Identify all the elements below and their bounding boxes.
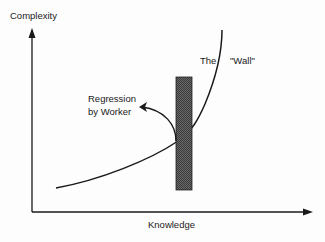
wall-label-the: The <box>200 55 216 66</box>
complexity-curve <box>56 30 222 188</box>
diagram-canvas: Complexity Knowledge The "Wall" Regressi… <box>0 0 325 242</box>
regression-label-line1: Regression <box>88 93 136 104</box>
y-axis <box>29 28 36 212</box>
wall-label-wall: "Wall" <box>230 55 255 66</box>
x-axis <box>32 209 313 216</box>
regression-label-line2: by Worker <box>88 106 131 117</box>
regression-curve <box>142 107 176 141</box>
x-axis-arrow-icon <box>303 209 313 216</box>
diagram-graphics <box>0 0 325 242</box>
x-axis-label: Knowledge <box>148 219 195 230</box>
y-axis-arrow-icon <box>29 28 36 38</box>
y-axis-label: Complexity <box>10 10 57 21</box>
wall-bar <box>176 77 192 190</box>
